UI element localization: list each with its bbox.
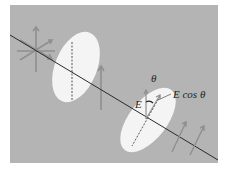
theta-label: θ (151, 73, 156, 84)
e-label: E (135, 99, 142, 110)
e-cos-theta-label: E cos θ (173, 89, 205, 100)
polarization-diagram (0, 0, 227, 174)
diagram-background (10, 5, 218, 163)
